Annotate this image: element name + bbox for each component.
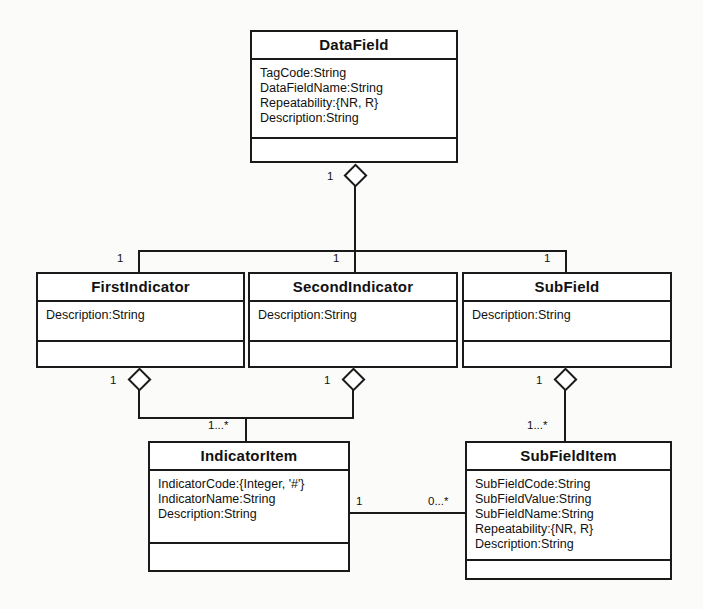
connector-indicatoritem-up [245, 417, 247, 441]
class-box-secondindicator[interactable]: SecondIndicator Description:String [248, 272, 458, 368]
aggregation-diamond-firstindicator [127, 367, 151, 391]
attribute-row: IndicatorName:String [158, 492, 340, 507]
class-name-subfielditem: SubFieldItem [467, 443, 670, 471]
class-box-firstindicator[interactable]: FirstIndicator Description:String [36, 272, 245, 368]
class-attributes-secondindicator: Description:String [250, 302, 456, 342]
class-name-indicatoritem: IndicatorItem [150, 443, 348, 471]
multiplicity-firstindicator-end: 1 [117, 252, 123, 264]
multiplicity-subfield-aggregation: 1 [536, 374, 542, 386]
class-attributes-datafield: TagCode:String DataFieldName:String Repe… [252, 60, 456, 139]
class-operations-datafield [252, 139, 456, 161]
class-name-subfield: SubField [464, 274, 670, 302]
connector-firstindicator-down [138, 390, 140, 418]
attribute-row: IndicatorCode:{Integer, '#'} [158, 477, 340, 492]
attribute-row: Description:String [158, 507, 340, 522]
attribute-row: Description:String [258, 308, 448, 323]
attribute-row: DataFieldName:String [260, 81, 448, 96]
class-attributes-firstindicator: Description:String [38, 302, 243, 342]
multiplicity-indicatoritem-end: 1...* [208, 419, 228, 431]
attribute-row: Repeatability:{NR, R} [475, 522, 662, 537]
class-box-indicatoritem[interactable]: IndicatorItem IndicatorCode:{Integer, '#… [148, 441, 350, 572]
uml-diagram-canvas: DataField TagCode:String DataFieldName:S… [0, 0, 703, 609]
multiplicity-firstindicator-aggregation: 1 [110, 374, 116, 386]
connector-distribution-bar [138, 250, 567, 252]
class-box-subfielditem[interactable]: SubFieldItem SubFieldCode:String SubFiel… [465, 441, 672, 580]
aggregation-diamond-subfield [553, 367, 577, 391]
class-name-secondindicator: SecondIndicator [250, 274, 456, 302]
multiplicity-datafield-aggregation: 1 [327, 170, 333, 182]
attribute-row: Description:String [472, 308, 662, 323]
class-operations-secondindicator [250, 342, 456, 366]
attribute-row: Description:String [475, 537, 662, 552]
class-name-firstindicator: FirstIndicator [38, 274, 243, 302]
class-operations-subfield [464, 342, 670, 366]
connector-datafield-trunk [354, 186, 356, 252]
attribute-row: SubFieldValue:String [475, 492, 662, 507]
multiplicity-indicatoritem-association: 1 [356, 495, 362, 507]
attribute-row: SubFieldName:String [475, 507, 662, 522]
multiplicity-secondindicator-aggregation: 1 [324, 374, 330, 386]
multiplicity-secondindicator-end: 1 [333, 252, 339, 264]
connector-branch-firstindicator [138, 250, 140, 272]
connector-branch-subfield [565, 250, 567, 272]
class-operations-firstindicator [38, 342, 243, 366]
attribute-row: Description:String [46, 308, 235, 323]
attribute-row: Repeatability:{NR, R} [260, 96, 448, 111]
attribute-row: TagCode:String [260, 66, 448, 81]
multiplicity-subfielditem-end: 1...* [527, 419, 547, 431]
connector-secondindicator-down [352, 390, 354, 418]
connector-branch-secondindicator [354, 250, 356, 272]
aggregation-diamond-secondindicator [341, 367, 365, 391]
class-operations-indicatoritem [150, 544, 348, 570]
multiplicity-subfield-end: 1 [544, 252, 550, 264]
aggregation-diamond-datafield [343, 163, 367, 187]
class-attributes-subfielditem: SubFieldCode:String SubFieldValue:String… [467, 471, 670, 561]
multiplicity-subfielditem-association: 0...* [428, 495, 448, 507]
class-box-datafield[interactable]: DataField TagCode:String DataFieldName:S… [250, 30, 458, 163]
class-operations-subfielditem [467, 561, 670, 585]
attribute-row: SubFieldCode:String [475, 477, 662, 492]
class-name-datafield: DataField [252, 32, 456, 60]
attribute-row: Description:String [260, 111, 448, 126]
class-box-subfield[interactable]: SubField Description:String [462, 272, 672, 368]
class-attributes-indicatoritem: IndicatorCode:{Integer, '#'} IndicatorNa… [150, 471, 348, 544]
class-attributes-subfield: Description:String [464, 302, 670, 342]
connector-subfielditem-up [564, 390, 566, 441]
connector-indicatoritem-subfielditem [350, 512, 465, 514]
